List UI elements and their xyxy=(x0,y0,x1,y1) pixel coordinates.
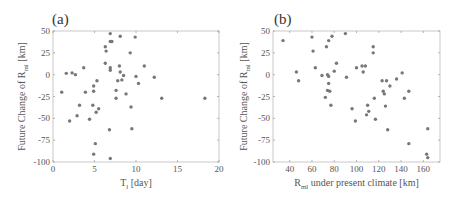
data-point xyxy=(383,92,386,95)
data-point xyxy=(364,64,367,67)
data-point xyxy=(92,84,95,87)
data-point xyxy=(104,45,107,48)
data-point xyxy=(426,127,429,130)
y-tick-label: 0 xyxy=(46,70,51,80)
data-point xyxy=(327,75,330,78)
data-point xyxy=(330,35,333,38)
data-point xyxy=(109,69,112,72)
data-point xyxy=(74,73,77,76)
x-tick-label: 10 xyxy=(132,164,142,174)
data-point xyxy=(119,70,122,73)
y-tick-label: -100 xyxy=(34,157,51,167)
data-point xyxy=(327,82,330,85)
data-point xyxy=(104,49,107,52)
data-point xyxy=(122,74,125,77)
x-tick-label: 15 xyxy=(173,164,183,174)
data-point xyxy=(328,90,331,93)
data-point xyxy=(384,104,387,107)
data-point xyxy=(373,97,376,100)
data-point xyxy=(372,51,375,54)
data-point xyxy=(403,97,406,100)
data-point xyxy=(295,70,298,73)
data-point xyxy=(297,79,300,82)
y-tick-label: 25 xyxy=(41,48,51,58)
plot-frame xyxy=(273,31,440,162)
y-tick-label: -100 xyxy=(254,157,271,167)
data-point xyxy=(425,152,428,155)
data-point xyxy=(88,118,91,121)
x-axis-label: Tl [day] xyxy=(120,177,152,191)
x-axis-label: Rml under present climate [km] xyxy=(294,177,419,191)
data-point xyxy=(82,66,85,69)
panel-label: (b) xyxy=(274,11,292,28)
data-point xyxy=(94,111,97,114)
data-point xyxy=(109,32,112,35)
data-point xyxy=(92,90,95,93)
x-tick-label: 5 xyxy=(92,164,97,174)
data-point xyxy=(350,107,353,110)
data-point xyxy=(78,104,81,107)
panel-label: (a) xyxy=(52,11,69,28)
plot-frame xyxy=(53,31,219,162)
y-axis-label: Future Change of Rml [km] xyxy=(16,42,30,151)
data-point xyxy=(360,64,363,67)
data-point xyxy=(119,35,122,38)
data-point xyxy=(345,76,348,79)
data-point xyxy=(84,90,87,93)
data-point xyxy=(94,142,97,145)
data-point xyxy=(372,45,375,48)
data-point xyxy=(361,70,364,73)
data-point xyxy=(367,110,370,113)
x-tick-label: 100 xyxy=(350,164,364,174)
data-point xyxy=(400,71,403,74)
x-tick-label: 140 xyxy=(394,164,408,174)
data-point xyxy=(380,79,383,82)
y-tick-label: -75 xyxy=(38,135,50,145)
y-tick-label: 50 xyxy=(261,26,271,36)
data-point xyxy=(395,77,398,80)
y-tick-label: -75 xyxy=(258,135,270,145)
data-point xyxy=(320,74,323,77)
data-point xyxy=(311,49,314,52)
data-point xyxy=(327,39,330,42)
data-point xyxy=(134,75,137,78)
data-point xyxy=(75,114,78,117)
data-point xyxy=(120,78,123,81)
data-point xyxy=(118,64,121,67)
y-tick-label: -25 xyxy=(38,92,50,102)
x-tick-label: 120 xyxy=(372,164,386,174)
data-point xyxy=(329,104,332,107)
data-point xyxy=(92,152,95,155)
y-tick-label: -50 xyxy=(258,113,270,123)
data-point xyxy=(97,107,100,110)
y-tick-label: -25 xyxy=(258,92,270,102)
data-point xyxy=(160,97,163,100)
y-axis-label: Future Change of Rml [km] xyxy=(238,42,252,151)
data-point xyxy=(70,71,73,74)
data-point xyxy=(110,40,113,43)
data-point xyxy=(325,45,328,48)
y-tick-label: -50 xyxy=(38,113,50,123)
data-point xyxy=(114,97,117,100)
data-point xyxy=(95,79,98,82)
data-point xyxy=(143,64,146,67)
data-point xyxy=(314,66,317,69)
figure: 0510152050250-25-50-75-100(a)Tl [day]Fut… xyxy=(0,0,459,199)
y-tick-label: 50 xyxy=(41,26,51,36)
data-point xyxy=(407,142,410,145)
data-point xyxy=(426,156,429,159)
data-point xyxy=(133,35,136,38)
data-point xyxy=(104,62,107,65)
data-point xyxy=(333,69,336,72)
x-tick-label: 40 xyxy=(285,164,295,174)
data-point xyxy=(310,35,313,38)
data-point xyxy=(129,105,132,108)
scatter-panel-a: 0510152050250-25-50-75-100(a)Tl [day]Fut… xyxy=(16,11,224,191)
data-point xyxy=(344,32,347,35)
data-point xyxy=(109,157,112,160)
data-point xyxy=(366,104,369,107)
data-point xyxy=(128,51,131,54)
data-point xyxy=(281,39,284,42)
data-point xyxy=(385,79,388,82)
data-point xyxy=(130,127,133,130)
